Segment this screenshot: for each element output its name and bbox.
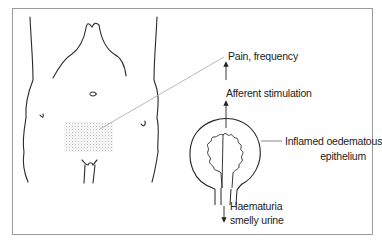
label-inflamed-line1: Inflamed oedematous [285,135,382,148]
diagram-artwork [0,0,382,245]
label-smelly-urine: smelly urine [230,214,284,227]
label-haematuria: Haematuria [230,200,282,213]
label-pain-frequency: Pain, frequency [228,50,298,63]
pointer-line [100,57,224,129]
label-inflamed-line2: epithelium [320,150,366,163]
label-afferent-stimulation: Afferent stimulation [226,87,312,100]
torso-outline [23,17,158,183]
stippled-pain-area [64,122,113,152]
bladder-diagram [190,119,282,205]
